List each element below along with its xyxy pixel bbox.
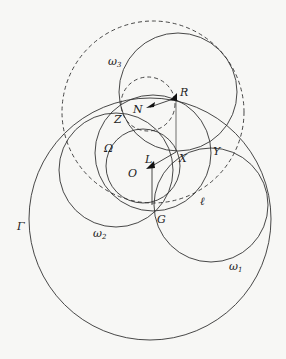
label-z: Z [113, 113, 122, 126]
label-y: Y [213, 145, 222, 158]
label-omega1: ω1 [229, 260, 242, 274]
arrowhead-n-icon [146, 102, 155, 108]
circle-omega2 [59, 113, 173, 227]
label-ell: ℓ [200, 195, 205, 208]
label-l: L [144, 153, 152, 166]
label-g: G [157, 213, 166, 226]
label-omega3: ω3 [108, 55, 122, 69]
label-omega2: ω2 [93, 227, 107, 241]
right-angle-r-icon [170, 93, 177, 101]
circle-gamma [29, 98, 271, 340]
label-o: O [128, 167, 137, 180]
label-omega-capital: Ω [103, 142, 113, 155]
label-n: N [132, 103, 143, 116]
circle-omega1 [154, 148, 268, 262]
circle-omega3 [119, 33, 237, 151]
label-x: X [178, 152, 188, 165]
circle-big-dashed [62, 21, 244, 203]
label-gamma: Γ [16, 220, 25, 233]
geometry-figure: ω3 R N Z Ω L X Y O ℓ G Γ ω2 ω1 [0, 0, 286, 359]
label-r: R [179, 86, 188, 99]
